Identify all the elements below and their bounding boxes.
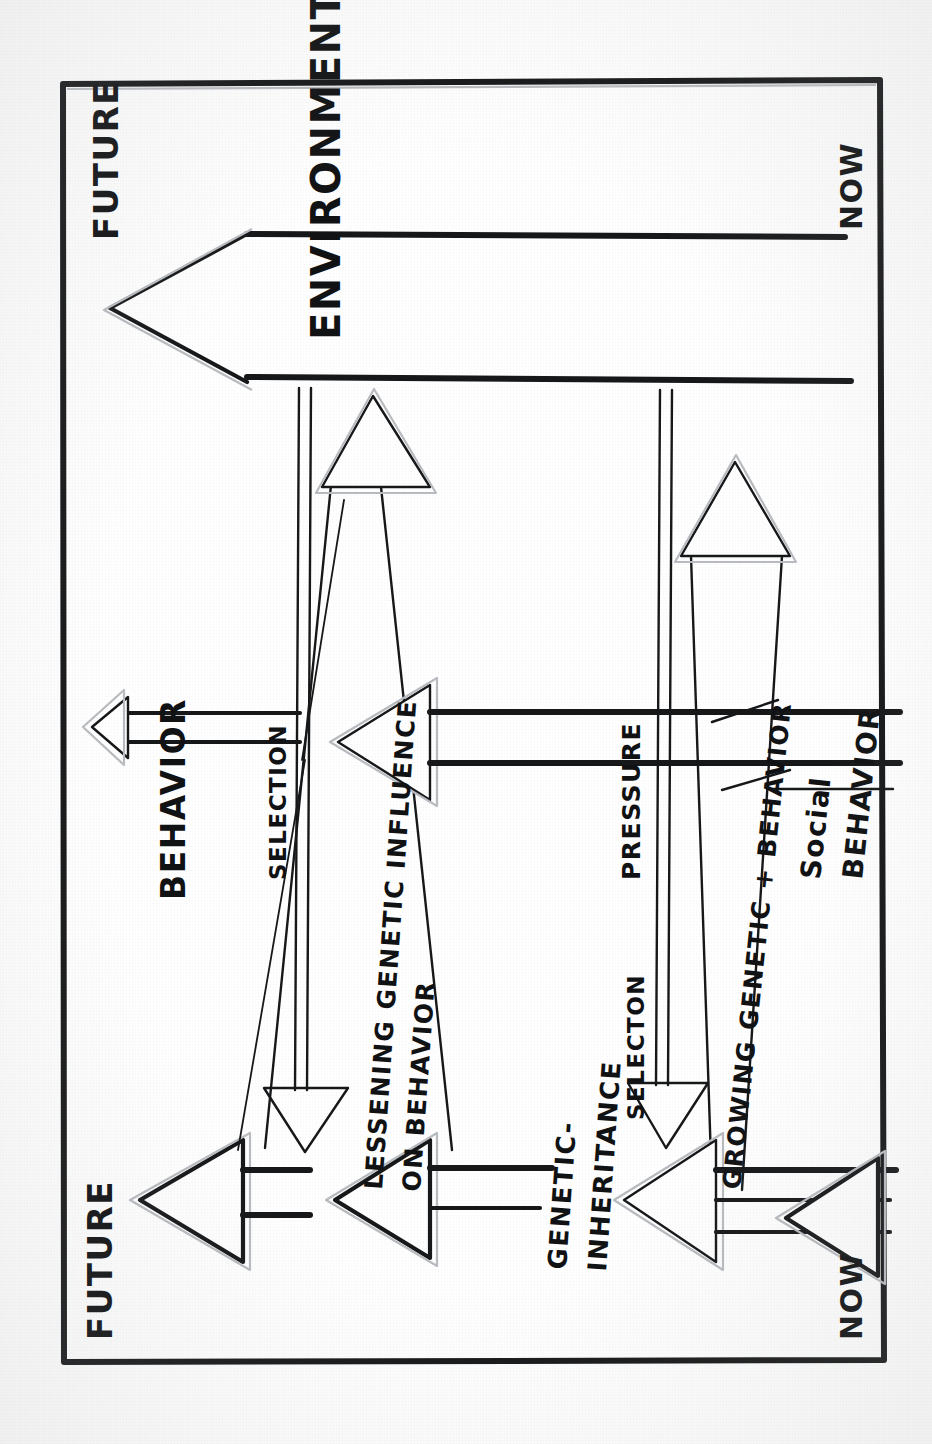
guide-strokes bbox=[238, 500, 344, 1150]
label-selection-lower: SELECTON bbox=[623, 974, 649, 1120]
svg-text:FUTURE: FUTURE bbox=[80, 1180, 120, 1340]
label-selection-upper: SELECTION bbox=[265, 724, 291, 880]
future-arrow-mid-left bbox=[326, 1133, 552, 1266]
environment-band bbox=[104, 229, 851, 390]
svg-text:Social: Social bbox=[794, 775, 838, 881]
svg-text:SELECTION: SELECTION bbox=[265, 724, 291, 880]
label-pressure: PRESSURE bbox=[617, 722, 646, 880]
label-now-bottom: NOW bbox=[834, 1252, 869, 1340]
label-social-line1: Social bbox=[794, 775, 838, 881]
svg-text:ENVIRONMENT: ENVIRONMENT bbox=[303, 0, 349, 340]
label-future-top: FUTURE bbox=[86, 80, 126, 240]
label-environment: ENVIRONMENT bbox=[303, 0, 349, 340]
svg-text:FUTURE: FUTURE bbox=[86, 80, 126, 240]
label-future-bottom: FUTURE bbox=[80, 1180, 120, 1340]
svg-text:NOW: NOW bbox=[834, 1252, 869, 1340]
diagram-page: FUTURE NOW ENVIRONMENT BEHAVIOR SELECTIO… bbox=[0, 0, 932, 1444]
svg-text:NOW: NOW bbox=[834, 142, 869, 230]
svg-text:GROWING GENETIC + BEHAVIOR: GROWING GENETIC + BEHAVIOR bbox=[717, 701, 797, 1191]
pressure-crossbars bbox=[600, 712, 700, 763]
diagram-canvas: FUTURE NOW ENVIRONMENT BEHAVIOR SELECTIO… bbox=[0, 0, 932, 1444]
svg-text:GENETIC-: GENETIC- bbox=[542, 1120, 582, 1270]
label-lessening-line2: ON BEHAVIOR bbox=[397, 980, 441, 1193]
label-behavior: BEHAVIOR bbox=[154, 698, 193, 900]
future-arrow-lower-left bbox=[130, 1133, 310, 1270]
svg-text:PRESSURE: PRESSURE bbox=[617, 722, 646, 880]
label-now-top: NOW bbox=[834, 142, 869, 230]
svg-text:ON BEHAVIOR: ON BEHAVIOR bbox=[397, 980, 441, 1193]
svg-text:BEHAVIOR: BEHAVIOR bbox=[154, 698, 193, 900]
svg-text:INHERITANCE: INHERITANCE bbox=[582, 1059, 627, 1272]
label-genetic-inheritance-line1: GENETIC- bbox=[542, 1120, 582, 1270]
svg-text:SELECTON: SELECTON bbox=[623, 974, 649, 1120]
label-genetic-inheritance-line2: INHERITANCE bbox=[582, 1059, 627, 1272]
label-growing: GROWING GENETIC + BEHAVIOR bbox=[717, 701, 797, 1191]
paper-sheet: FUTURE NOW ENVIRONMENT BEHAVIOR SELECTIO… bbox=[0, 0, 932, 1444]
